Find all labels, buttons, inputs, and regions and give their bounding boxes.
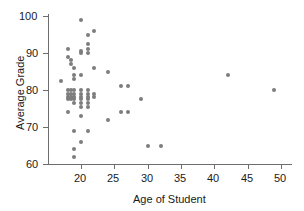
data-point: [79, 51, 83, 55]
data-point: [126, 84, 130, 88]
data-point: [92, 29, 96, 33]
data-point: [72, 129, 76, 133]
data-point: [159, 144, 163, 148]
data-point: [146, 144, 150, 148]
data-point: [86, 129, 90, 133]
data-points-layer: [0, 0, 304, 211]
data-point: [72, 101, 76, 105]
data-point: [79, 140, 83, 144]
data-point: [92, 66, 96, 70]
data-point: [72, 66, 76, 70]
data-point: [79, 73, 83, 77]
data-point: [79, 18, 83, 22]
data-point: [126, 110, 130, 114]
data-point: [226, 73, 230, 77]
data-point: [106, 118, 110, 122]
data-point: [119, 110, 123, 114]
data-point: [86, 105, 90, 109]
data-point: [72, 147, 76, 151]
data-point: [66, 110, 70, 114]
data-point: [59, 79, 63, 83]
data-point: [86, 42, 90, 46]
data-point: [86, 33, 90, 37]
data-point: [106, 70, 110, 74]
data-point: [79, 105, 83, 109]
scatter-plot: 100 90 80 70 60 20 25 30 35 40 45 50 Ave…: [0, 0, 304, 211]
data-point: [79, 114, 83, 118]
data-point: [86, 51, 90, 55]
data-point: [139, 97, 143, 101]
data-point: [66, 47, 70, 51]
data-point: [119, 84, 123, 88]
data-point: [272, 88, 276, 92]
data-point: [72, 77, 76, 81]
data-point: [92, 95, 96, 99]
data-point: [72, 155, 76, 159]
